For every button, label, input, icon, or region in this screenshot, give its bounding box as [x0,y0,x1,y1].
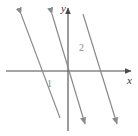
y-intercept-label-2: 2 [79,43,84,53]
x-axis-label: x [127,75,132,86]
y-axis-label: y [61,3,66,14]
line-right [83,14,117,124]
lines-group [21,14,117,124]
x-intercept-label-1: 1 [47,79,52,89]
coordinate-plane-figure: y x 2 1 [0,0,138,136]
plot-svg [0,0,138,136]
line-left [21,14,60,118]
